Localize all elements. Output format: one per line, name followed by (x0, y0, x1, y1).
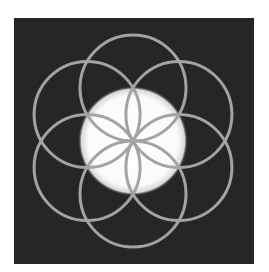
overlapping-circles (34, 35, 232, 247)
seed-of-life-artwork (0, 0, 269, 272)
